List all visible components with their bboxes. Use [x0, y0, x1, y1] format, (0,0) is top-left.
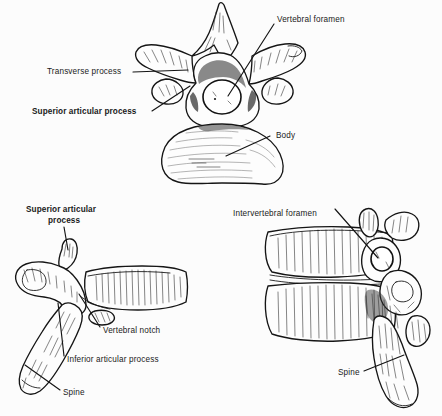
stacked-vertebrae-view: Intervertebral foramen Spine — [233, 209, 430, 408]
superior-articular-process-lateral — [59, 239, 78, 270]
vertebral-body-superior — [162, 124, 283, 184]
label-inferior-articular-process: Inferior articular process — [67, 355, 159, 364]
figure-canvas: Vertebral foramen Transverse process Sup… — [0, 0, 442, 416]
inferior-articular-facet-lateral — [89, 310, 114, 325]
spine-lateral — [19, 303, 82, 394]
label-spine-stacked: Spine — [338, 368, 360, 377]
anatomy-figure: Vertebral foramen Transverse process Sup… — [0, 0, 442, 416]
lateral-view-vertebra: Superior articular process Vertebral not… — [16, 205, 188, 397]
intervertebral-foramen-opening — [371, 247, 393, 271]
upper-transverse-process — [385, 212, 419, 240]
vertebral-body-lateral — [85, 266, 188, 310]
label-vertebral-notch: Vertebral notch — [103, 326, 161, 335]
label-superior-articular-process: Superior articular process — [32, 107, 137, 116]
label-body: Body — [276, 131, 296, 140]
label-superior-articular-line2: process — [48, 216, 80, 225]
label-vertebral-foramen: Vertebral foramen — [277, 15, 345, 24]
label-intervertebral-foramen: Intervertebral foramen — [233, 209, 317, 218]
foramen-dot — [214, 98, 216, 100]
articular-knob-right — [262, 78, 293, 104]
label-superior-articular-line1: Superior articular — [26, 205, 97, 214]
label-spine-lateral: Spine — [63, 388, 85, 397]
superior-view-vertebra: Vertebral foramen Transverse process Sup… — [32, 3, 345, 185]
label-transverse-process: Transverse process — [47, 67, 121, 76]
